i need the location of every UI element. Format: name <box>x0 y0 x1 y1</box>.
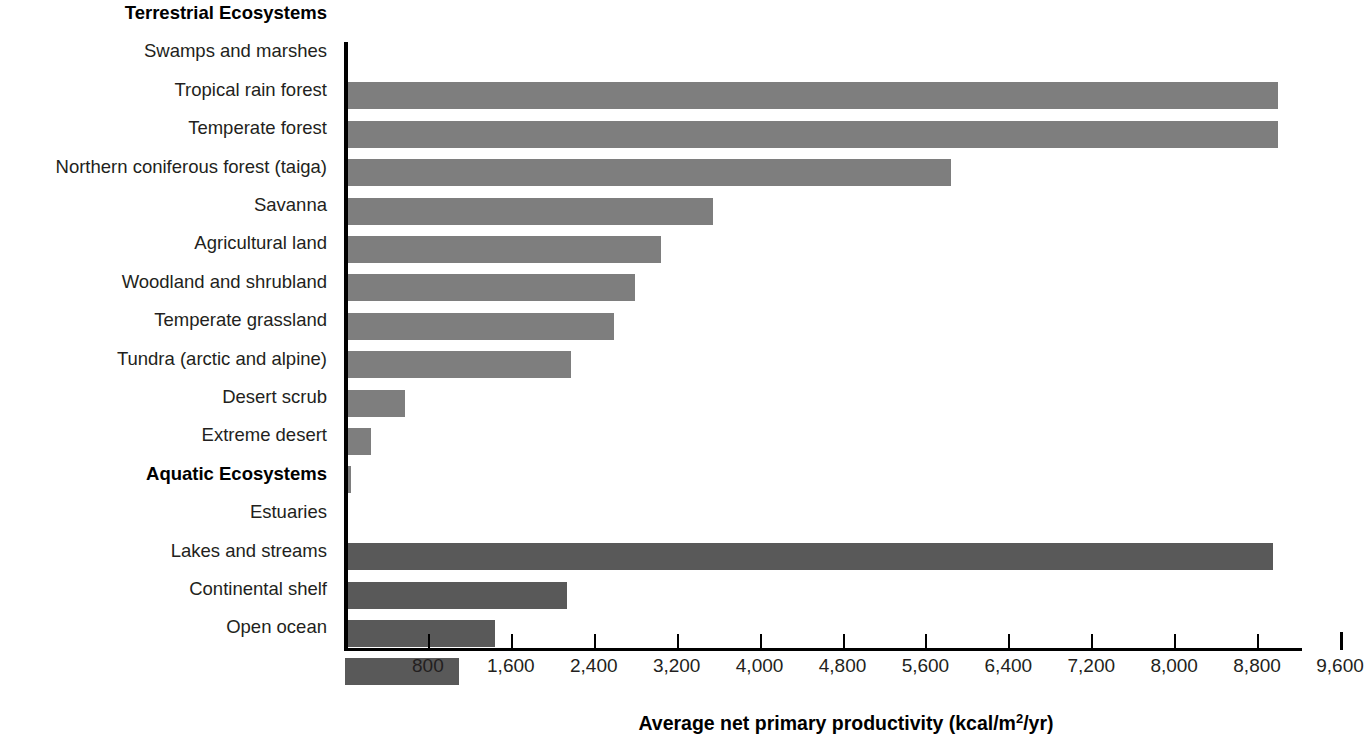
x-axis-tick <box>1257 634 1259 648</box>
x-axis-tick-label: 1,600 <box>487 655 535 677</box>
x-axis-tick-label: 7,200 <box>1067 655 1115 677</box>
x-axis-tick-label: 800 <box>412 655 444 677</box>
row-label: Continental shelf <box>0 579 327 599</box>
row-label: Tundra (arctic and alpine) <box>0 349 327 369</box>
x-axis-tick <box>1091 634 1093 648</box>
x-axis-tick <box>1340 632 1343 650</box>
bar <box>345 543 1273 570</box>
group-header-label: Terrestrial Ecosystems <box>0 3 327 23</box>
bar <box>345 82 1278 109</box>
bar <box>345 351 571 378</box>
x-axis-tick-label: 3,200 <box>653 655 701 677</box>
row-label-column: Terrestrial EcosystemsSwamps and marshes… <box>0 0 336 660</box>
x-axis-tick <box>1174 634 1176 648</box>
bar <box>345 274 635 301</box>
row-label: Lakes and streams <box>0 541 327 561</box>
row-label: Woodland and shrubland <box>0 272 327 292</box>
x-axis-tick-label: 4,000 <box>736 655 784 677</box>
bar <box>345 428 371 455</box>
x-axis-line <box>344 648 1302 651</box>
x-axis-tick <box>428 634 430 648</box>
x-axis-tick <box>677 634 679 648</box>
row-label: Agricultural land <box>0 233 327 253</box>
row-label: Estuaries <box>0 502 327 522</box>
y-axis-line <box>344 42 348 650</box>
row-label: Extreme desert <box>0 425 327 445</box>
x-axis-tick-label: 8,000 <box>1150 655 1198 677</box>
x-axis-tick <box>1008 634 1010 648</box>
x-axis-title: Average net primary productivity (kcal/m… <box>345 712 1347 735</box>
x-axis-tick-label: 4,800 <box>819 655 867 677</box>
x-axis-tick <box>925 634 927 648</box>
plot-area <box>345 0 1347 660</box>
x-axis-tick <box>594 634 596 648</box>
x-axis-tick-label: 9,600 <box>1316 655 1364 677</box>
bar <box>345 620 495 647</box>
x-axis-tick <box>843 634 845 648</box>
x-axis-tick-label: 6,400 <box>985 655 1033 677</box>
row-label: Swamps and marshes <box>0 41 327 61</box>
x-axis-tick <box>760 634 762 648</box>
row-label: Tropical rain forest <box>0 80 327 100</box>
row-label: Desert scrub <box>0 387 327 407</box>
x-axis-title-text-after: /yr) <box>1023 712 1053 734</box>
bar <box>345 390 405 417</box>
bar <box>345 582 567 609</box>
x-axis-title-text-before: Average net primary productivity (kcal/m <box>638 712 1016 734</box>
row-label: Temperate forest <box>0 118 327 138</box>
bar <box>345 236 661 263</box>
row-label: Temperate grassland <box>0 310 327 330</box>
row-label: Northern coniferous forest (taiga) <box>0 157 327 177</box>
x-axis-tick <box>511 634 513 648</box>
bar <box>345 121 1278 148</box>
group-header-label: Aquatic Ecosystems <box>0 464 327 484</box>
bar <box>345 198 713 225</box>
bar <box>345 159 951 186</box>
row-label: Savanna <box>0 195 327 215</box>
x-axis-tick-label: 2,400 <box>570 655 618 677</box>
row-label: Open ocean <box>0 617 327 637</box>
x-axis-tick-label: 5,600 <box>902 655 950 677</box>
bar <box>345 313 614 340</box>
x-axis-tick-label: 8,800 <box>1233 655 1281 677</box>
